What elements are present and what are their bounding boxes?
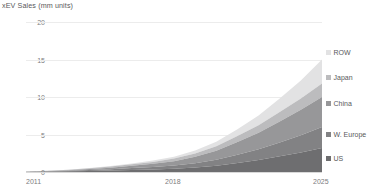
x-tick-label: 2018: [165, 178, 181, 185]
legend-label: US: [334, 155, 344, 162]
chart-title: xEV Sales (mm units): [2, 1, 73, 10]
x-tick-label: 2011: [26, 178, 41, 185]
legend-swatch-icon: [326, 101, 331, 106]
chart-legend: ROWJapanChinaW. EuropeUS: [326, 0, 373, 193]
stacked-area-series: [26, 22, 322, 172]
legend-swatch-icon: [326, 75, 331, 80]
legend-item-w-europe[interactable]: W. Europe: [326, 131, 366, 138]
legend-label: ROW: [334, 49, 351, 56]
gridline-0: [26, 172, 322, 173]
legend-label: W. Europe: [334, 131, 367, 138]
legend-item-china[interactable]: China: [326, 100, 352, 107]
plot-area: [26, 22, 322, 172]
legend-label: Japan: [334, 74, 353, 81]
legend-swatch-icon: [326, 50, 331, 55]
legend-item-japan[interactable]: Japan: [326, 74, 353, 81]
legend-item-row[interactable]: ROW: [326, 49, 351, 56]
chart-container: xEV Sales (mm units) 05101520 2011201820…: [0, 0, 373, 193]
legend-label: China: [334, 100, 352, 107]
legend-swatch-icon: [326, 156, 331, 161]
legend-swatch-icon: [326, 132, 331, 137]
legend-item-us[interactable]: US: [326, 155, 343, 162]
